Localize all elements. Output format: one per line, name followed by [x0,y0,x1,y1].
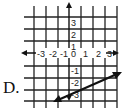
y-tick: 3 [71,18,76,28]
plotted-line [53,72,122,102]
y-tick: -2 [71,78,79,88]
x-tick: 2 [96,49,101,59]
x-tick: 1 [83,49,88,59]
x-tick: 3 [107,49,112,59]
x-axis-right-arrow-icon [113,50,119,56]
x-tick: -2 [49,49,57,59]
y-tick: -1 [71,66,79,76]
x-tick: -3 [37,49,45,59]
y-tick: 2 [71,30,76,40]
y-tick-labels: 3 2 1 -1 -2 -3 [71,18,79,100]
coordinate-grid: -3 -2 -1 0 1 2 3 3 2 1 -1 -2 -3 [0,0,129,111]
x-axis-left-arrow-icon [21,50,27,56]
y-tick: 1 [71,42,76,52]
y-axis-up-arrow-icon [66,2,72,8]
x-tick: -1 [60,49,68,59]
